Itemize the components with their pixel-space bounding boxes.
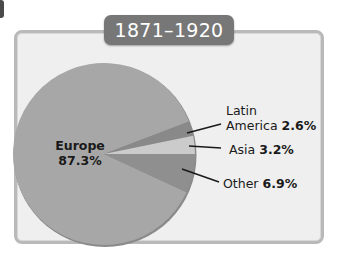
label-latin-name: America: [226, 118, 278, 133]
label-other-name: Other: [223, 176, 259, 191]
label-europe: Europe 87.3%: [49, 138, 111, 168]
label-latin-value: 2.6%: [282, 118, 317, 133]
label-europe-value: 87.3%: [49, 153, 111, 168]
label-europe-name: Europe: [49, 138, 111, 153]
label-latin-line1: Latin: [226, 103, 316, 118]
label-latin-america: Latin America 2.6%: [226, 103, 316, 133]
label-other-value: 6.9%: [262, 176, 297, 191]
chart-title: 1871–1920: [104, 15, 234, 45]
label-asia-name: Asia: [229, 142, 255, 157]
label-other: Other 6.9%: [223, 176, 297, 191]
label-asia: Asia 3.2%: [229, 142, 294, 157]
label-asia-value: 3.2%: [259, 142, 294, 157]
